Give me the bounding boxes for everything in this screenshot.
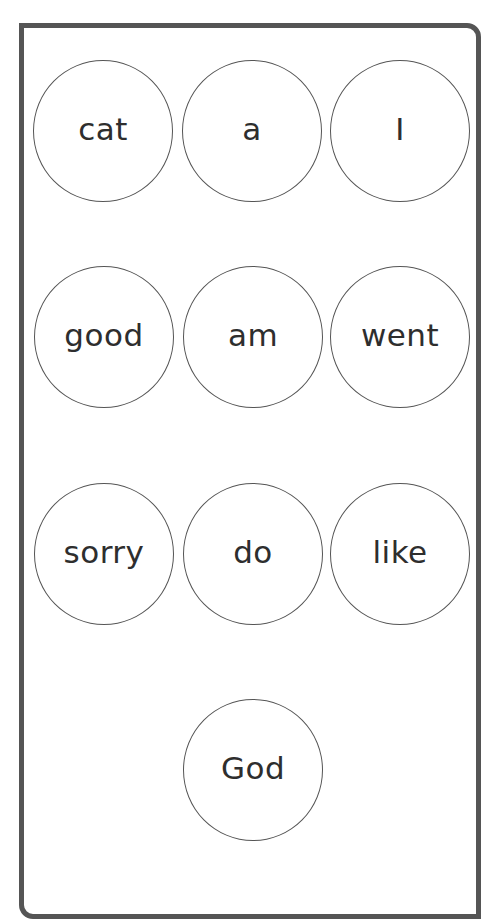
word-label: a xyxy=(242,111,262,147)
word-circle-good[interactable]: good xyxy=(34,266,174,408)
word-circle-a[interactable]: a xyxy=(182,60,322,202)
word-label: sorry xyxy=(64,534,145,570)
word-circle-like[interactable]: like xyxy=(330,483,470,625)
word-circle-cat[interactable]: cat xyxy=(33,60,173,202)
word-circle-went[interactable]: went xyxy=(330,266,470,408)
word-label: am xyxy=(228,317,278,353)
word-label: cat xyxy=(78,111,128,147)
word-label: God xyxy=(221,750,285,786)
word-circle-god[interactable]: God xyxy=(183,699,323,841)
word-label: good xyxy=(64,317,143,353)
word-circle-am[interactable]: am xyxy=(183,266,323,408)
word-label: I xyxy=(395,111,405,147)
word-circle-do[interactable]: do xyxy=(183,483,323,625)
word-label: went xyxy=(361,317,439,353)
word-label: do xyxy=(233,534,273,570)
word-circle-sorry[interactable]: sorry xyxy=(34,483,174,625)
word-circle-i[interactable]: I xyxy=(330,60,470,202)
word-label: like xyxy=(372,534,427,570)
